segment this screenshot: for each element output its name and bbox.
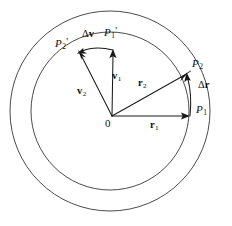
- point-label-p1: P1: [196, 104, 207, 117]
- vector-label-delta-r: Δr: [198, 80, 209, 91]
- point-label-p2-prime: P2': [55, 37, 68, 50]
- point-label-p1-prime: P1': [104, 26, 117, 39]
- point-label-p2: P2: [192, 58, 203, 71]
- vector-label-v1: v1: [112, 71, 121, 83]
- vector-v2: [78, 50, 112, 116]
- origin-label: 0: [105, 118, 111, 129]
- vector-label-delta-v: Δv: [82, 29, 94, 40]
- vector-delta-v: [77, 48, 113, 54]
- figure-canvas: 0 P1 P2 P1' P2' r1 r2 v1 v2 Δr Δv: [0, 0, 232, 226]
- vector-label-r2: r2: [138, 78, 147, 90]
- vector-label-v2: v2: [77, 86, 86, 98]
- vector-label-r1: r1: [150, 120, 159, 132]
- vector-r2: [112, 73, 188, 116]
